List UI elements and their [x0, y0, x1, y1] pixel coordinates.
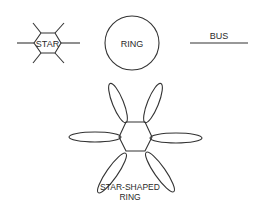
ring-petal: [140, 81, 166, 124]
bus-topology: BUS: [190, 31, 248, 43]
star-ring-label-line2: RING: [119, 192, 140, 202]
ring-petal: [105, 81, 131, 124]
star-spoke: [55, 53, 64, 63]
star-spoke: [55, 23, 64, 33]
ring-label: RING: [121, 39, 144, 49]
star-ring-label-line1: STAR-SHAPED: [100, 182, 160, 192]
star-shaped-ring-topology: STAR-SHAPED RING: [69, 81, 202, 202]
star-spoke: [33, 53, 41, 63]
ring-topology: RING: [105, 16, 159, 70]
star-spoke: [33, 23, 41, 33]
ring-petal: [69, 132, 121, 142]
bus-label: BUS: [210, 31, 229, 41]
ring-petal: [150, 133, 202, 143]
star-ring-hub: [119, 122, 152, 151]
star-topology: STAR: [17, 23, 80, 63]
star-label: STAR: [36, 39, 60, 49]
topology-diagram: STAR RING BUS STAR-SHAPED RING: [0, 0, 258, 214]
